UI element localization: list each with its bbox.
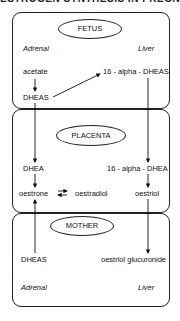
arrow-dheas-to-16a-dheas (53, 74, 100, 97)
pathway-arrows (0, 0, 180, 321)
equilibrium-arrows (58, 191, 67, 195)
